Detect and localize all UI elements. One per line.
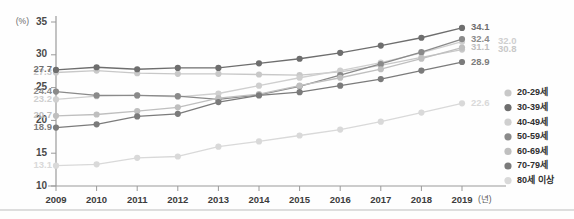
- data-point: [175, 111, 181, 117]
- legend-item-80세-이상[interactable]: 80세 이상: [504, 174, 554, 185]
- end-value-label: 22.6: [471, 97, 490, 108]
- data-point: [378, 76, 384, 82]
- data-point: [175, 104, 181, 110]
- data-point: [337, 50, 343, 56]
- legend-item-60-69세[interactable]: 60-69세: [504, 145, 548, 156]
- y-tick-label: 15: [36, 147, 48, 158]
- x-tick-label: 2014: [248, 194, 270, 205]
- data-point: [134, 92, 140, 98]
- legend-item-40-49세[interactable]: 40-49세: [504, 116, 548, 127]
- x-tick-label: 2010: [86, 194, 107, 205]
- data-point: [134, 113, 140, 119]
- end-value-label: 31.1: [471, 41, 490, 52]
- data-point: [94, 92, 100, 98]
- series-60-69-: [53, 44, 465, 118]
- legend-item-50-59세[interactable]: 50-59세: [504, 130, 548, 141]
- start-value-label: 18.9: [34, 121, 53, 132]
- x-tick-label: 2018: [411, 194, 432, 205]
- legend-item-30-39세[interactable]: 30-39세: [504, 101, 548, 112]
- data-point: [94, 121, 100, 127]
- data-point: [297, 89, 303, 95]
- y-tick-label: 30: [36, 48, 48, 59]
- data-point: [215, 99, 221, 105]
- data-point: [256, 83, 262, 89]
- data-point: [378, 43, 384, 49]
- start-value-label: 24.4: [34, 85, 53, 96]
- start-value-label: 13.1: [34, 159, 53, 170]
- data-point: [53, 96, 59, 102]
- series-30-39-: [53, 25, 465, 73]
- data-point: [215, 144, 221, 150]
- data-point: [418, 67, 424, 73]
- data-point: [256, 138, 262, 144]
- data-point: [256, 92, 262, 98]
- data-point: [94, 111, 100, 117]
- data-point: [297, 83, 303, 89]
- data-point: [256, 71, 262, 77]
- end-value-label: 28.9: [471, 56, 490, 67]
- legend-swatch-icon: [504, 177, 511, 184]
- legend-label: 20-29세: [517, 86, 548, 97]
- legend-label: 80세 이상: [517, 174, 555, 185]
- data-point: [215, 65, 221, 71]
- data-point: [418, 109, 424, 115]
- y-tick-label: 10: [36, 180, 48, 191]
- y-tick-label: 35: [36, 16, 48, 27]
- data-point: [53, 125, 59, 131]
- start-value-label: 27.7: [34, 63, 53, 74]
- data-point: [215, 71, 221, 77]
- data-point: [256, 60, 262, 66]
- data-point: [53, 113, 59, 119]
- data-point: [459, 36, 465, 42]
- x-tick-label: 2017: [370, 194, 391, 205]
- chart-container: 101520253035 (%) 20092010201120122013201…: [0, 0, 574, 219]
- data-point: [418, 49, 424, 55]
- data-point: [175, 153, 181, 159]
- data-point: [53, 88, 59, 94]
- data-point: [94, 161, 100, 167]
- legend-swatch-icon: [504, 148, 511, 155]
- x-tick-label: 2011: [127, 194, 148, 205]
- data-point: [459, 59, 465, 65]
- data-point: [175, 93, 181, 99]
- legend-item-20-29세[interactable]: 20-29세: [504, 86, 548, 97]
- data-point: [337, 75, 343, 81]
- legend-label: 40-49세: [517, 116, 548, 127]
- x-axis: 2009201020112012201320142015201620172018…: [45, 186, 506, 205]
- end-value-label: 34.1: [471, 21, 490, 32]
- x-axis-unit-label: (년): [478, 194, 492, 204]
- data-point: [175, 71, 181, 77]
- data-point: [297, 132, 303, 138]
- legend-item-70-79세[interactable]: 70-79세: [504, 159, 548, 170]
- x-tick-group: 2009201020112012201320142015201620172018…: [45, 186, 472, 205]
- data-point: [297, 56, 303, 62]
- x-tick-label: 2016: [330, 194, 351, 205]
- data-point: [337, 83, 343, 89]
- data-point: [53, 67, 59, 73]
- legend-label: 30-39세: [517, 101, 548, 112]
- data-point: [418, 56, 424, 62]
- data-point: [94, 64, 100, 70]
- data-point: [378, 66, 384, 72]
- legend-label: 60-69세: [517, 145, 548, 156]
- data-point: [175, 65, 181, 71]
- legend-swatch-icon: [504, 119, 511, 126]
- line-chart-svg: 101520253035 (%) 20092010201120122013201…: [0, 0, 574, 219]
- series-80-: [53, 100, 465, 169]
- legend-label: 70-79세: [517, 159, 548, 170]
- data-point: [337, 126, 343, 132]
- data-point: [418, 35, 424, 41]
- data-point: [297, 75, 303, 81]
- start-value-label: 20.7: [34, 109, 53, 120]
- legend: 20-29세30-39세40-49세50-59세60-69세70-79세80세 …: [504, 86, 554, 185]
- series-70-79-: [53, 59, 465, 131]
- legend-swatch-icon: [504, 89, 511, 96]
- data-point: [134, 155, 140, 161]
- data-point: [459, 100, 465, 106]
- x-tick-label: 2012: [167, 194, 188, 205]
- legend-swatch-icon: [504, 133, 511, 140]
- data-point: [459, 44, 465, 50]
- x-tick-label: 2015: [289, 194, 311, 205]
- y-axis-unit-label: (%): [16, 16, 29, 26]
- data-point: [134, 66, 140, 72]
